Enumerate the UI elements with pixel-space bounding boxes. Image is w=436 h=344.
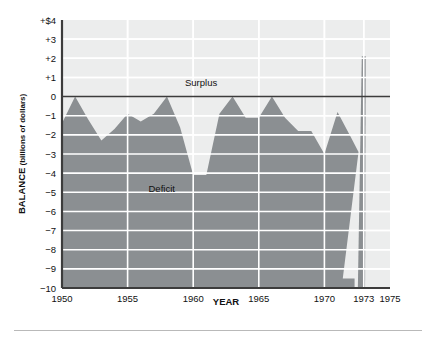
y-tick-label: −3 [45,149,56,160]
y-tick-label: −1 [45,110,56,121]
x-tick-label: 1973 [353,293,374,304]
y-tick-label: +$4 [40,15,56,26]
annotation-deficit: Deficit [149,183,176,194]
y-axis-title: BALANCE (billions of dollars) [16,94,27,215]
annotation-surplus: Surplus [185,77,217,88]
y-tick-label: +3 [45,34,56,45]
footer-divider [14,330,422,331]
y-tick-label: +1 [45,72,56,83]
x-tick-label: 1950 [51,293,72,304]
y-tick-label: −5 [45,187,56,198]
x-tick-label: 1965 [248,293,269,304]
y-tick-label: −6 [45,206,56,217]
y-tick-label: −8 [45,244,56,255]
x-axis-title: YEAR [213,296,240,306]
y-axis-tick-labels: +$4+3+2+10−1−2−3−4−5−6−7−8−9−10 [40,15,56,294]
y-tick-label: −2 [45,129,56,140]
y-tick-label: −4 [45,168,56,179]
x-tick-label: 1970 [314,293,335,304]
x-tick-label: 1960 [183,293,204,304]
y-tick-label: −7 [45,225,56,236]
figure-container: +$4+3+2+10−1−2−3−4−5−6−7−8−9−10 19501955… [0,0,436,344]
y-tick-label: −10 [40,283,56,294]
y-tick-label: 0 [51,91,56,102]
x-tick-label: 1975 [379,293,400,304]
y-tick-label: −9 [45,263,56,274]
y-tick-label: +2 [45,53,56,64]
balance-area-chart: +$4+3+2+10−1−2−3−4−5−6−7−8−9−10 19501955… [12,6,412,306]
chart-area: +$4+3+2+10−1−2−3−4−5−6−7−8−9−10 19501955… [12,6,412,306]
x-tick-label: 1955 [117,293,138,304]
